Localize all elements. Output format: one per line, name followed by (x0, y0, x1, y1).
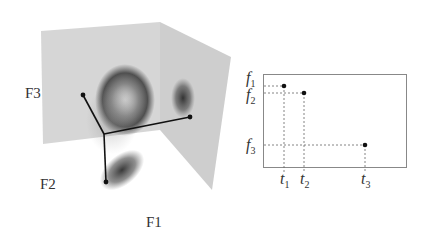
axis-endpoint-f3 (81, 93, 86, 98)
axis-endpoint-f2 (104, 180, 109, 185)
x-tick-t2: t2 (300, 170, 309, 190)
axis-label-f2: F2 (40, 176, 56, 193)
guide-lines (264, 86, 365, 172)
data-point-3 (363, 143, 368, 148)
density-blob-halo (86, 86, 138, 154)
density-blob-right (171, 78, 195, 118)
axis-label-f1: F1 (146, 214, 162, 231)
data-point-1 (282, 84, 287, 89)
y-tick-f2: f2 (246, 86, 255, 106)
figure-canvas (0, 0, 430, 244)
axis-label-f3: F3 (25, 85, 41, 102)
data-point-2 (302, 91, 307, 96)
x-tick-t1: t1 (280, 170, 289, 190)
back-plane-right (160, 22, 231, 190)
x-tick-t3: t3 (361, 170, 370, 190)
chart-frame (264, 75, 407, 168)
y-tick-f3: f3 (246, 136, 255, 156)
axis-endpoint-f1 (188, 115, 193, 120)
